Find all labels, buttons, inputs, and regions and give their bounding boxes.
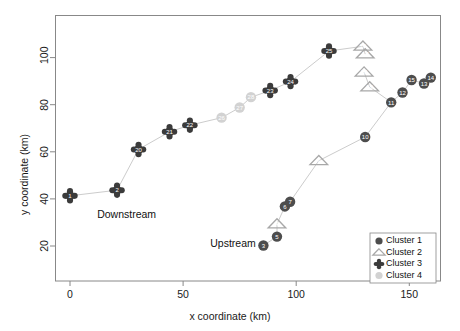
upstream-tributary-path <box>263 78 430 246</box>
legend-marker-cluster-1 <box>375 237 382 244</box>
annotation-upstream: Upstream <box>210 237 256 249</box>
data-point-label: 22 <box>187 122 194 128</box>
x-axis-title: x coordinate (km) <box>0 310 460 322</box>
legend-label-cluster-1[interactable]: Cluster 1 <box>386 235 422 245</box>
x-tick-label: 100 <box>282 288 310 300</box>
data-point-label: 25 <box>326 48 333 54</box>
data-point-label: 23 <box>267 88 274 94</box>
legend-label-cluster-2[interactable]: Cluster 2 <box>386 247 422 257</box>
data-point-label: 14 <box>427 75 434 81</box>
data-point-label: 9 <box>317 158 321 164</box>
data-point-label: 4 <box>275 221 279 227</box>
data-point-label: 26 <box>218 115 225 121</box>
data-point-label: 28 <box>248 94 255 100</box>
data-point-label: 12 <box>399 90 406 96</box>
data-point-label: 24 <box>287 79 294 85</box>
y-tick-label: 20 <box>38 240 50 252</box>
data-point-label: 21 <box>166 129 173 135</box>
x-tick-label: 50 <box>169 288 197 300</box>
data-point-label: 27 <box>236 105 243 111</box>
y-tick-label: 100 <box>38 52 50 64</box>
data-point-label: 13 <box>421 81 428 87</box>
scatter-plot-canvas: 3567101112131415491617181912202122232425… <box>0 0 460 331</box>
y-tick-label: 80 <box>38 99 50 111</box>
data-point-label: 19 <box>366 84 373 90</box>
x-tick-label: 0 <box>56 288 84 300</box>
legend-label-cluster-3[interactable]: Cluster 3 <box>386 258 422 268</box>
y-tick-label: 60 <box>38 146 50 158</box>
data-point-label: 11 <box>388 100 395 106</box>
legend-label-cluster-4[interactable]: Cluster 4 <box>386 270 422 280</box>
chart-figure: 3567101112131415491617181912202122232425… <box>0 0 460 331</box>
y-axis-title: y coordinate (km) <box>18 134 30 215</box>
annotation-downstream: Downstream <box>97 208 156 220</box>
data-point-label: 15 <box>408 77 415 83</box>
series-cluster-1: 3567101112131415 <box>258 72 436 250</box>
x-tick-label: 150 <box>395 288 423 300</box>
data-point-label: 20 <box>135 147 142 153</box>
data-point-label: 17 <box>362 51 369 57</box>
legend-marker-cluster-4 <box>375 272 382 279</box>
data-point-label: 18 <box>361 69 368 75</box>
series-cluster-4: 262728 <box>216 92 256 123</box>
axis-ticks-layer <box>50 58 409 286</box>
data-point-label: 10 <box>362 134 369 140</box>
downstream-main-path <box>70 46 365 196</box>
y-tick-label: 40 <box>38 193 50 205</box>
